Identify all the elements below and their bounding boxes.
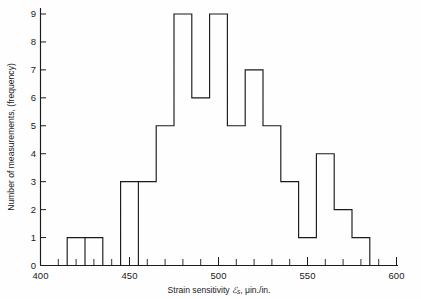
y-tick-label: 4: [31, 148, 36, 159]
y-tick-label: 6: [31, 92, 36, 103]
axes: [41, 8, 399, 266]
x-axis-ticks: 400450500550600: [33, 257, 405, 281]
y-tick-label: 9: [31, 8, 36, 19]
y-axis-ticks: 0123456789: [31, 8, 46, 271]
x-tick-label: 450: [122, 270, 138, 281]
y-tick-label: 5: [31, 120, 36, 131]
y-tick-label: 8: [31, 36, 36, 47]
x-tick-label: 500: [211, 270, 227, 281]
histogram-outline: [67, 14, 370, 266]
y-axis-title-label: Number of measurements, (frequency): [6, 63, 16, 211]
x-tick-label: 550: [300, 270, 316, 281]
y-tick-label: 1: [31, 232, 36, 243]
y-tick-label: 3: [31, 176, 36, 187]
x-tick-label: 600: [389, 270, 405, 281]
x-axis-title: Strain sensitivity ℰs, μin./in.: [168, 285, 271, 295]
x-tick-label: 400: [33, 270, 49, 281]
x-axis-title-label: Strain sensitivity ℰs, μin./in.: [168, 285, 271, 295]
histogram-plot: 0123456789 400450500550600 Strain sensit…: [0, 0, 421, 299]
histogram-figure: 0123456789 400450500550600 Strain sensit…: [0, 0, 421, 299]
y-axis-title: Number of measurements, (frequency): [6, 63, 16, 211]
y-tick-label: 2: [31, 204, 36, 215]
histogram-bars: [67, 14, 370, 266]
y-tick-label: 7: [31, 64, 36, 75]
